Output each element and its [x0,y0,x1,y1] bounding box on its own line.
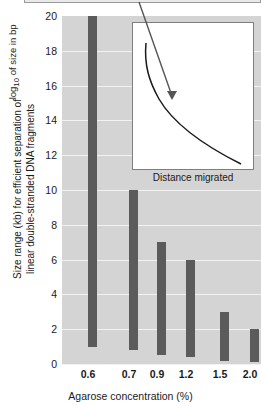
x-axis-title: Agarose concentration (%) [0,390,261,402]
inset-ylabel-subscript: 10 [12,78,21,87]
y-tick-label: 20 [45,11,57,21]
bar-0.9 [157,242,166,355]
y-tick-label: 16 [45,81,57,91]
bar-0.6 [88,16,97,347]
y-tick-label: 18 [45,46,57,56]
inset-ylabel-prefix: log [7,87,18,100]
x-tick-label: 0.9 [150,368,165,380]
y-tick-label: 4 [51,289,57,299]
x-tick-label: 0.6 [81,368,96,380]
inset-plot [132,22,254,170]
bar-1.2 [186,260,195,357]
y-tick-label: 8 [51,220,57,230]
y-tick-label: 2 [51,324,57,334]
inset-y-axis-title: log10 of size in bp [7,7,21,117]
bar-0.7 [129,190,138,350]
x-tick-label: 0.7 [122,368,137,380]
inset-ylabel-suffix: of size in bp [7,25,18,78]
y-tick-label: 14 [45,115,57,125]
inset-curve [133,23,253,169]
gridline [62,364,261,365]
x-tick-label: 1.2 [179,368,194,380]
y-tick-label: 10 [45,185,57,195]
y-tick-label: 6 [51,255,57,265]
y-tick-label: 12 [45,150,57,160]
bar-1.5 [220,312,229,361]
bar-2.0 [250,329,259,362]
y-tick-label: 0 [51,359,57,369]
inset-x-axis-title: Distance migrated [132,172,254,183]
x-tick-label: 2.0 [243,368,258,380]
x-tick-label: 1.5 [213,368,228,380]
